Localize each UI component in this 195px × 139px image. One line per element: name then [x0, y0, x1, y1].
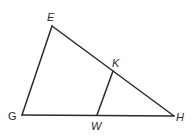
vertex-label-e: E: [47, 11, 55, 23]
vertex-labels: EGHKW: [8, 11, 184, 132]
segment-eg: [22, 26, 52, 115]
vertex-label-w: W: [91, 120, 103, 132]
vertex-label-h: H: [176, 111, 184, 123]
vertex-label-g: G: [8, 110, 17, 122]
segments: [22, 26, 174, 116]
vertex-label-k: K: [112, 57, 120, 69]
segment-gh: [22, 115, 174, 116]
triangle-diagram: EGHKW: [0, 0, 195, 139]
segment-kw: [97, 71, 113, 115]
